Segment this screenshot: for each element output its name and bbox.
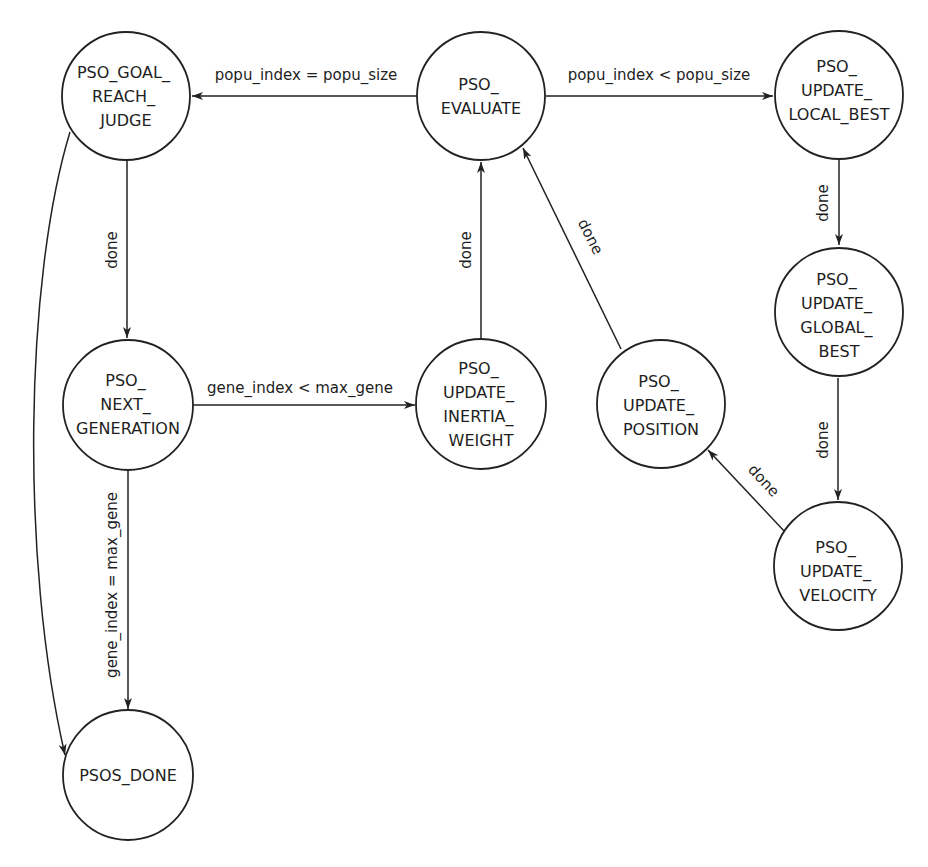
edge-label: popu_index = popu_size: [215, 66, 398, 85]
edge-update-position-to-evaluate: done: [523, 148, 621, 349]
edge-evaluate-to-update-local-best: popu_index < popu_size: [546, 66, 773, 96]
edge-label: gene_index < max_gene: [207, 379, 393, 398]
edge-label: done: [103, 231, 121, 268]
edge-update-global-best-to-update-velocity: done: [814, 378, 838, 500]
state-pso-update-inertia-weight: PSO_ UPDATE_ INERTIA_ WEIGHT: [416, 339, 546, 469]
state-diagram: popu_index = popu_size popu_index < popu…: [0, 0, 928, 867]
edge-update-velocity-to-update-position: done: [708, 450, 785, 532]
state-pso-update-position: PSO_ UPDATE_ POSITION: [597, 340, 725, 468]
edge-next-generation-to-update-inertia-weight: gene_index < max_gene: [193, 379, 415, 405]
edge-update-inertia-weight-to-evaluate: done: [457, 162, 481, 338]
edge-evaluate-to-goal-reach-judge: popu_index = popu_size: [192, 66, 417, 96]
state-pso-update-global-best: PSO_ UPDATE_ GLOBAL_ BEST: [775, 248, 903, 376]
edge-label: gene_index = max_gene: [103, 492, 122, 678]
state-pso-update-velocity: PSO_ UPDATE_ VELOCITY: [774, 502, 902, 630]
state-pso-goal-reach-judge: PSO_GOAL_ REACH_ JUDGE: [62, 32, 190, 160]
edge-label: done: [457, 231, 475, 268]
state-pso-evaluate: PSO_ EVALUATE: [417, 32, 545, 160]
edge-next-generation-to-psos-done: gene_index = max_gene: [103, 471, 128, 709]
state-label: PSOS_DONE: [79, 766, 177, 786]
edge-update-local-best-to-update-global-best: done: [814, 160, 839, 245]
edge-label: done: [814, 184, 832, 221]
state-psos-done: PSOS_DONE: [63, 710, 193, 840]
edge-label: done: [574, 216, 607, 258]
state-pso-update-local-best: PSO_ UPDATE_ LOCAL_BEST: [775, 31, 903, 159]
state-pso-next-generation: PSO_ NEXT_ GENERATION: [63, 340, 193, 470]
edge-goal-reach-judge-to-psos-done: [34, 132, 70, 755]
edge-label: popu_index < popu_size: [568, 66, 751, 85]
edge-goal-reach-judge-to-next-generation: done: [103, 160, 127, 338]
edge-label: done: [814, 421, 832, 458]
